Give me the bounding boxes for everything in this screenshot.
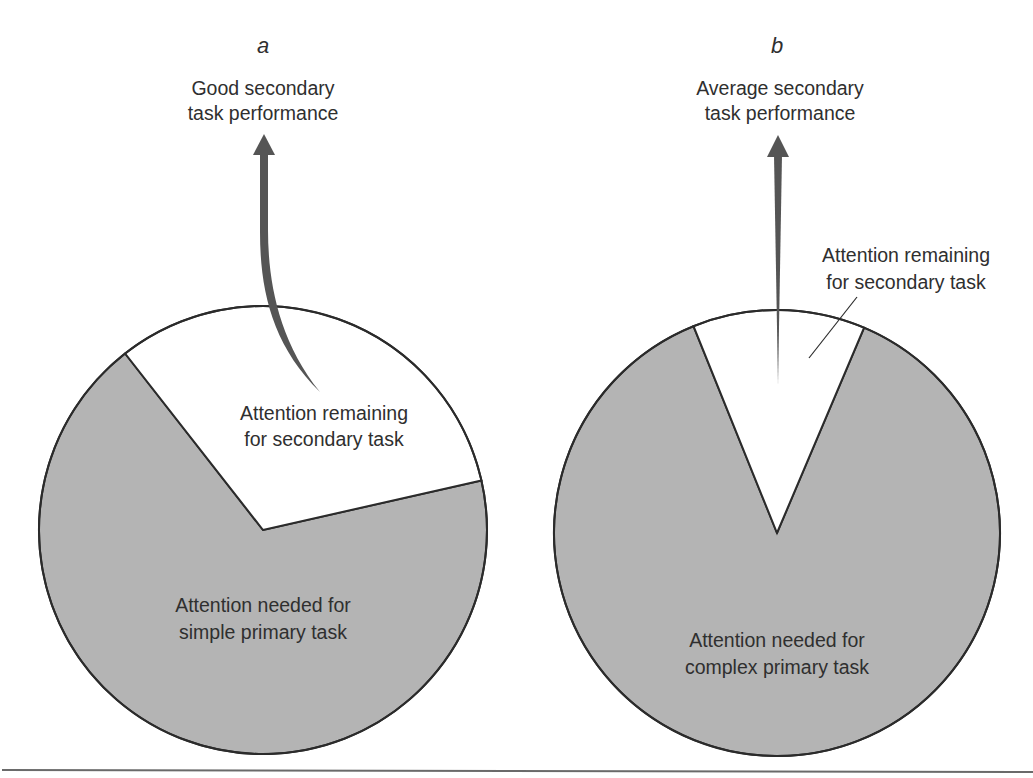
panel-b-needed-line2: complex primary task bbox=[685, 656, 869, 678]
panel-a-needed-line2: simple primary task bbox=[179, 621, 347, 643]
panel-b-outcome-line1: Average secondary bbox=[696, 77, 864, 99]
panel-b-remaining-line2: for secondary task bbox=[826, 271, 986, 293]
panel-a-outcome-line2: task performance bbox=[188, 102, 339, 124]
panel-b: b Average secondary task performance Att… bbox=[554, 33, 1000, 756]
bottom-rule bbox=[2, 770, 1033, 772]
panel-a-outcome-line1: Good secondary bbox=[191, 77, 334, 99]
panel-b-needed-line1: Attention needed for bbox=[689, 629, 865, 651]
panel-a-needed-line1: Attention needed for bbox=[175, 594, 351, 616]
panel-a-remaining-line1: Attention remaining bbox=[240, 402, 408, 424]
panel-b-arrow-head-icon bbox=[767, 135, 789, 157]
attention-pie-diagram: a Good secondary task performance Attent… bbox=[0, 0, 1033, 778]
panel-b-remaining-line1: Attention remaining bbox=[822, 244, 990, 266]
panel-b-label: b bbox=[771, 33, 783, 58]
panel-a-arrow-head-icon bbox=[253, 134, 275, 155]
panel-a-remaining-line2: for secondary task bbox=[244, 428, 404, 450]
panel-b-outcome-line2: task performance bbox=[705, 102, 856, 124]
panel-a-label: a bbox=[257, 33, 269, 58]
panel-a: a Good secondary task performance Attent… bbox=[39, 33, 487, 754]
